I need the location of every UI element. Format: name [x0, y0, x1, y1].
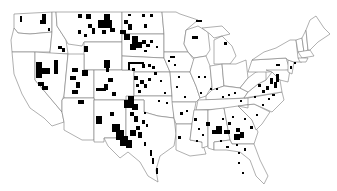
us-county-map	[0, 0, 337, 191]
state-florida	[214, 140, 268, 184]
state-washington	[14, 12, 52, 34]
states-layer	[11, 12, 330, 184]
state-indiana	[210, 64, 224, 90]
state-new-york	[252, 40, 302, 62]
state-arizona	[62, 98, 94, 140]
state-wyoming	[84, 42, 122, 70]
state-maine	[306, 16, 330, 50]
state-connecticut	[298, 58, 308, 62]
map-svg	[0, 0, 337, 191]
